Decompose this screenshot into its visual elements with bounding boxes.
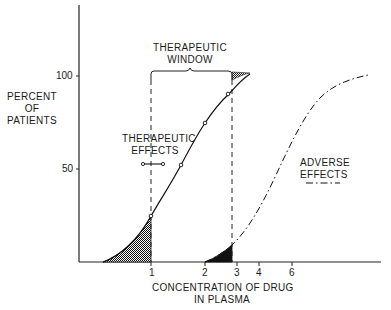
x-axis-label-line: CONCENTRATION OF DRUG	[152, 282, 292, 294]
x-tick-label-3: 3	[234, 268, 240, 278]
shaded-toxic-region	[205, 245, 232, 262]
therapeutic-legend-dot	[141, 162, 144, 165]
therapeutic-effects-curve	[103, 74, 250, 262]
x-tick-label-2: 2	[202, 268, 208, 278]
legend-label-line: THERAPEUTIC	[122, 133, 188, 145]
legend-label-line: EFFECTS	[122, 145, 188, 157]
x-axis-label-line: IN PLASMA	[152, 294, 292, 306]
therapeutic-legend-dot	[161, 162, 164, 165]
data-point-marker	[226, 92, 230, 96]
y-axis-label-line: PATIENTS	[4, 115, 60, 127]
y-axis-label-line: OF	[4, 103, 60, 115]
y-axis-label-line: PERCENT	[4, 91, 60, 103]
x-tick-label-1: 1	[149, 268, 155, 278]
window-label-line: WINDOW	[150, 54, 230, 66]
y-tick-label-50: 50	[62, 164, 73, 174]
x-tick-label-4: 4	[256, 268, 262, 278]
legend-label-line: ADVERSE	[300, 157, 344, 169]
data-point-marker	[179, 163, 183, 167]
x-axis-label: CONCENTRATION OF DRUG IN PLASMA	[152, 282, 292, 306]
y-axis-label: PERCENT OF PATIENTS	[4, 91, 60, 127]
therapeutic-window-label: THERAPEUTIC WINDOW	[150, 42, 230, 66]
shaded-subtherapeutic-region	[103, 216, 151, 262]
therapeutic-effects-legend: THERAPEUTIC EFFECTS	[122, 133, 188, 157]
data-point-marker	[203, 121, 207, 125]
data-point-marker	[149, 214, 153, 218]
therapeutic-window-bracket	[151, 68, 232, 80]
y-tick-label-100: 100	[56, 71, 73, 81]
adverse-effects-legend: ADVERSE EFFECTS	[300, 157, 344, 181]
legend-label-line: EFFECTS	[300, 169, 344, 181]
window-label-line: THERAPEUTIC	[150, 42, 230, 54]
x-tick-label-6: 6	[289, 268, 295, 278]
